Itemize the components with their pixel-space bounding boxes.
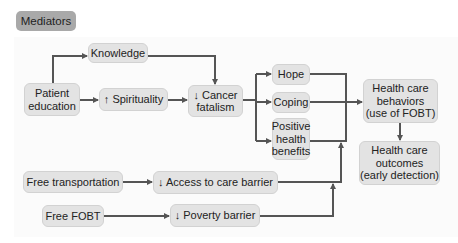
node-knowledge: Knowledge	[88, 43, 148, 63]
node-free-fobt: Free FOBT	[42, 205, 104, 227]
node-access-barrier: ↓ Access to care barrier	[153, 171, 278, 194]
node-spirituality: ↑ Spirituality	[99, 88, 168, 111]
node-coping: Coping	[272, 92, 310, 113]
node-hope: Hope	[272, 64, 310, 85]
edge-hope-collector	[310, 74, 346, 141]
node-poverty-barrier: ↓ Poverty barrier	[170, 204, 260, 227]
node-health-care-behaviors: Health care behaviors (use of FOBT)	[363, 79, 438, 123]
edge-patient-knowledge	[53, 56, 87, 83]
node-patient-education: Patient education	[24, 83, 80, 116]
node-free-transportation: Free transportation	[23, 171, 123, 193]
edge-knowledge-fatalism	[148, 56, 215, 84]
node-cancer-fatalism: ↓ Cancer fatalism	[188, 85, 243, 117]
node-positive-health-benefits: Positive health benefits	[272, 118, 310, 160]
node-health-care-outcomes: Health care outcomes (early detection)	[359, 141, 440, 185]
